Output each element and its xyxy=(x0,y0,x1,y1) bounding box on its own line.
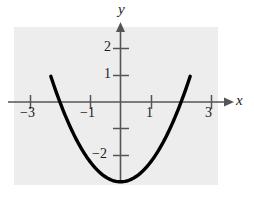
x-tick-label-neg1: −1 xyxy=(80,106,95,120)
x-axis-label: x xyxy=(236,93,243,108)
x-tick-label-pos1: 1 xyxy=(146,106,153,120)
y-tick-label-neg2: −2 xyxy=(92,147,107,161)
parabola-figure: y x −3 −1 1 3 2 1 −2 xyxy=(0,0,254,200)
x-tick-label-pos3: 3 xyxy=(205,106,212,120)
y-tick-label-pos1: 1 xyxy=(104,67,111,81)
graph-canvas xyxy=(0,0,254,200)
y-axis-label: y xyxy=(118,2,125,17)
y-tick-label-pos2: 2 xyxy=(104,40,111,54)
x-tick-label-neg3: −3 xyxy=(20,106,35,120)
